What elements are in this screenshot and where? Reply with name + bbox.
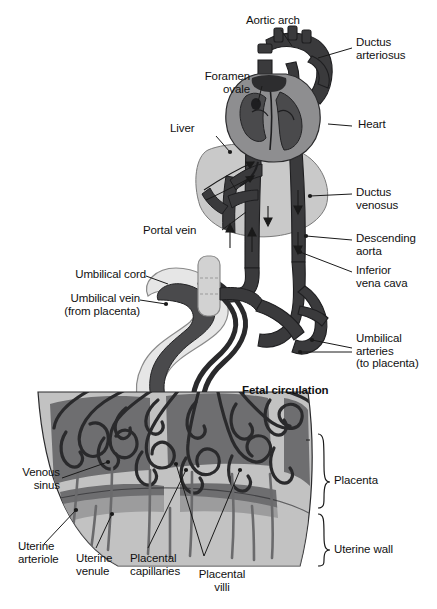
label-fetal-circulation: Fetal circulation [242, 384, 329, 397]
label-umbilical-vein: Umbilical vein (from placenta) [20, 292, 140, 317]
label-ductus-venosus: Ductus venosus [356, 186, 398, 211]
label-uterine-venule: Uterine venule [76, 552, 112, 577]
label-heart: Heart [358, 118, 386, 131]
label-uterine-wall: Uterine wall [334, 543, 393, 556]
label-portal-vein: Portal vein [143, 224, 196, 237]
label-foramen-ovale: Foramen ovale [180, 70, 250, 95]
label-ductus-arteriosus: Ductus arteriosus [356, 36, 406, 61]
label-placental-capillaries: Placental capillaries [130, 552, 180, 577]
label-umbilical-cord: Umbilical cord [34, 268, 146, 281]
label-umbilical-arteries: Umbilical arteries (to placenta) [356, 332, 419, 370]
section-braces [318, 434, 330, 566]
label-placenta: Placenta [334, 474, 378, 487]
label-descending-aorta: Descending aorta [356, 232, 416, 257]
label-aortic-arch: Aortic arch [246, 14, 300, 27]
cord-segment [198, 256, 220, 316]
label-venous-sinus: Venous sinus [2, 466, 60, 491]
fetal-circulation-figure: Aortic arch Ductus arteriosus Foramen ov… [0, 0, 437, 609]
label-uterine-arteriole: Uterine arteriole [18, 540, 59, 565]
label-liver: Liver [170, 122, 194, 135]
label-inferior-vena-cava: Inferior vena cava [356, 264, 408, 289]
label-placental-villi: Placental villi [186, 568, 258, 593]
